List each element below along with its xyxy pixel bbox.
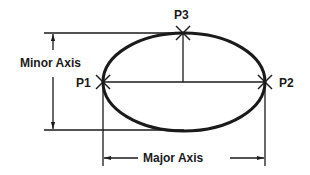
p1-label: P1 [76, 76, 91, 90]
p2-label: P2 [279, 76, 294, 90]
minor-axis-label: Minor Axis [20, 56, 81, 70]
major-axis-label: Major Axis [143, 151, 204, 165]
p3-label: P3 [174, 8, 189, 22]
ellipse-diagram: Minor Axis P1 P2 P3 Major Axis [0, 0, 310, 175]
